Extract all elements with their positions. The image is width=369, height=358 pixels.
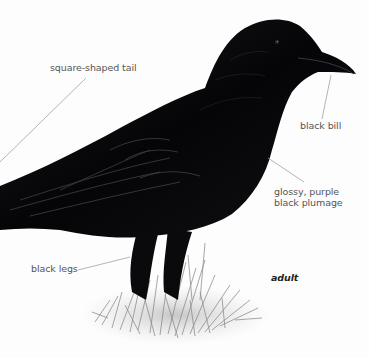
crow-artwork — [0, 0, 369, 358]
label-glossy-plumage-line2: black plumage — [274, 197, 338, 208]
label-black-bill: black bill — [300, 120, 341, 131]
label-adult: adult — [271, 272, 298, 283]
label-glossy-plumage: glossy, purple black plumage — [274, 186, 338, 208]
legs-leader-line — [78, 257, 130, 270]
plumage-leader-line — [268, 158, 304, 182]
label-glossy-plumage-line1: glossy, purple — [274, 186, 338, 197]
crow-eye — [275, 40, 279, 44]
label-black-legs: black legs — [31, 263, 78, 274]
tail-leader-line — [0, 78, 86, 162]
crow-illustration: square-shaped tail black bill glossy, pu… — [0, 0, 369, 358]
bill-leader-line — [322, 75, 331, 119]
label-square-shaped-tail: square-shaped tail — [50, 62, 137, 73]
